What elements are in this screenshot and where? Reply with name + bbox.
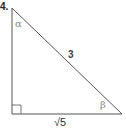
base-length-label: √5 bbox=[54, 117, 66, 128]
right-angle-marker bbox=[12, 105, 21, 114]
problem-number: 4. bbox=[0, 2, 8, 12]
angle-beta-label: β bbox=[100, 100, 106, 110]
angle-alpha-label: α bbox=[15, 19, 22, 29]
hypotenuse-label: 3 bbox=[68, 50, 74, 60]
